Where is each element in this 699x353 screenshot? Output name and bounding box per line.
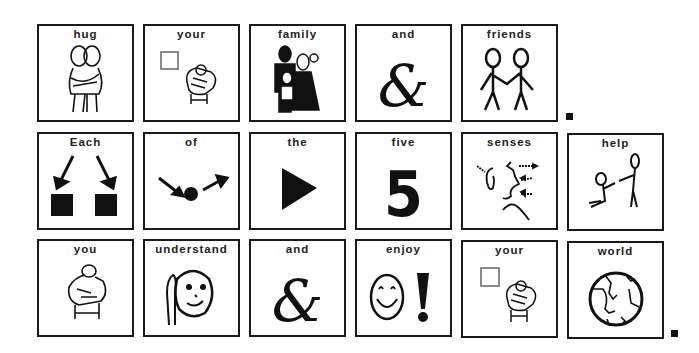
card-label: and bbox=[251, 243, 344, 255]
card-friends[interactable]: friends bbox=[461, 24, 558, 122]
card-label: and bbox=[357, 28, 450, 40]
card-your-2[interactable]: your bbox=[461, 240, 558, 338]
world-icon bbox=[569, 259, 662, 335]
card-enjoy[interactable]: enjoy bbox=[355, 239, 452, 337]
the-icon bbox=[251, 150, 344, 226]
period bbox=[566, 113, 573, 120]
senses-icon bbox=[463, 150, 556, 226]
card-understand[interactable]: understand bbox=[143, 239, 240, 337]
card-your[interactable]: your bbox=[143, 24, 240, 122]
card-hug[interactable]: hug bbox=[37, 24, 134, 122]
svg-text:&: & bbox=[378, 52, 430, 118]
card-and-2[interactable]: and & bbox=[249, 239, 346, 337]
ampersand-icon: & bbox=[251, 257, 344, 333]
card-label: your bbox=[463, 244, 556, 256]
card-label: hug bbox=[39, 28, 132, 40]
card-label: help bbox=[569, 137, 662, 149]
svg-text:&: & bbox=[272, 267, 324, 333]
card-senses[interactable]: senses bbox=[461, 132, 558, 230]
card-of[interactable]: of bbox=[143, 132, 240, 230]
of-icon bbox=[145, 150, 238, 226]
each-icon bbox=[39, 150, 132, 226]
card-label: understand bbox=[145, 243, 238, 255]
card-label: you bbox=[39, 243, 132, 255]
card-five[interactable]: five 5 bbox=[355, 132, 452, 230]
card-each[interactable]: Each bbox=[37, 132, 134, 230]
card-label: friends bbox=[463, 28, 556, 40]
period bbox=[671, 330, 678, 337]
card-you[interactable]: you bbox=[37, 239, 134, 337]
card-label: the bbox=[251, 136, 344, 148]
card-and[interactable]: and & bbox=[355, 24, 452, 122]
friends-icon bbox=[463, 42, 556, 118]
your-icon bbox=[463, 258, 556, 334]
card-label: your bbox=[145, 28, 238, 40]
card-label: enjoy bbox=[357, 243, 450, 255]
card-label: senses bbox=[463, 136, 556, 148]
card-label: five bbox=[357, 136, 450, 148]
help-icon bbox=[569, 151, 662, 227]
understand-icon bbox=[145, 257, 238, 333]
hug-icon bbox=[39, 42, 132, 118]
five-icon: 5 bbox=[357, 150, 450, 226]
family-icon bbox=[251, 42, 344, 118]
card-label: Each bbox=[39, 136, 132, 148]
card-world[interactable]: world bbox=[567, 241, 664, 339]
your-icon bbox=[145, 42, 238, 118]
card-label: world bbox=[569, 245, 662, 257]
svg-text:5: 5 bbox=[384, 158, 423, 226]
ampersand-icon: & bbox=[357, 42, 450, 118]
card-the[interactable]: the bbox=[249, 132, 346, 230]
enjoy-icon bbox=[357, 257, 450, 333]
card-help[interactable]: help bbox=[567, 133, 664, 231]
card-family[interactable]: family bbox=[249, 24, 346, 122]
card-label: of bbox=[145, 136, 238, 148]
you-icon bbox=[39, 257, 132, 333]
card-label: family bbox=[251, 28, 344, 40]
